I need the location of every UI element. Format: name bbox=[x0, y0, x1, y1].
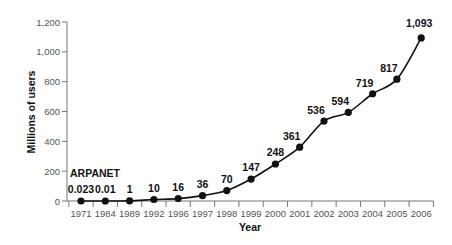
data-point bbox=[296, 144, 303, 151]
x-tick-label: 2003 bbox=[338, 208, 359, 219]
x-tick-label: 1998 bbox=[216, 208, 237, 219]
data-label: 361 bbox=[283, 130, 301, 142]
data-labels: 0.0230.011101636701472483615365947198171… bbox=[68, 17, 433, 195]
data-label: 16 bbox=[172, 181, 184, 193]
x-tick-label: 1989 bbox=[119, 208, 140, 219]
data-label: 594 bbox=[332, 95, 350, 107]
data-point bbox=[175, 195, 182, 202]
x-tick-label: 2004 bbox=[362, 208, 383, 219]
y-tick-label: 1,000 bbox=[36, 46, 60, 57]
y-tick-label: 200 bbox=[44, 166, 60, 177]
data-label: 10 bbox=[148, 182, 160, 194]
data-point bbox=[418, 34, 425, 41]
data-label: 147 bbox=[242, 161, 260, 173]
data-label: 817 bbox=[380, 62, 398, 74]
data-label: 1,093 bbox=[406, 17, 432, 29]
data-label: 248 bbox=[267, 146, 285, 158]
x-tick-label: 2001 bbox=[289, 208, 310, 219]
data-label: 719 bbox=[356, 77, 374, 89]
y-tick-label: 400 bbox=[44, 136, 60, 147]
x-tick-label: 1997 bbox=[192, 208, 213, 219]
x-tick-label: 1984 bbox=[95, 208, 116, 219]
data-label: 36 bbox=[197, 178, 209, 190]
x-tick-label: 2000 bbox=[265, 208, 286, 219]
x-tick-label: 2005 bbox=[386, 208, 407, 219]
data-point bbox=[369, 90, 376, 97]
y-axis-title: Millions of users bbox=[25, 70, 37, 153]
data-series bbox=[77, 34, 424, 204]
x-tick-label: 1999 bbox=[241, 208, 262, 219]
data-label: 0.023 bbox=[68, 183, 94, 195]
x-axis: 1971198419891992199619971998199920002001… bbox=[67, 201, 433, 219]
x-tick-label: 1971 bbox=[70, 208, 91, 219]
data-point bbox=[272, 160, 279, 167]
x-tick-label: 2002 bbox=[313, 208, 334, 219]
line-chart: 02004006008001,0001,200 1971198419891992… bbox=[0, 0, 452, 245]
data-point bbox=[345, 109, 352, 116]
data-point bbox=[248, 175, 255, 182]
data-point bbox=[77, 197, 84, 204]
data-point bbox=[102, 197, 109, 204]
data-label: 0.01 bbox=[95, 183, 116, 195]
x-tick-label: 2006 bbox=[411, 208, 432, 219]
data-label: 1 bbox=[127, 183, 133, 195]
arpanet-annotation: ARPANET bbox=[70, 167, 121, 179]
data-point bbox=[126, 197, 133, 204]
y-tick-label: 0 bbox=[55, 196, 60, 207]
data-point bbox=[393, 76, 400, 83]
data-point bbox=[320, 117, 327, 124]
x-tick-label: 1996 bbox=[168, 208, 189, 219]
data-point bbox=[223, 187, 230, 194]
data-label: 70 bbox=[221, 173, 233, 185]
y-axis: 02004006008001,0001,200 bbox=[36, 17, 67, 207]
y-tick-label: 800 bbox=[44, 76, 60, 87]
y-tick-label: 1,200 bbox=[36, 17, 60, 28]
data-point bbox=[150, 196, 157, 203]
x-tick-label: 1992 bbox=[143, 208, 164, 219]
x-axis-title: Year bbox=[239, 221, 261, 233]
y-tick-label: 600 bbox=[44, 106, 60, 117]
data-point bbox=[199, 192, 206, 199]
data-label: 536 bbox=[307, 104, 325, 116]
